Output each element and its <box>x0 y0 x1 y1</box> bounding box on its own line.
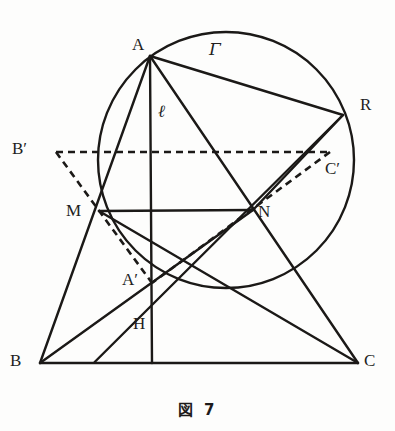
point-label-a-prime: A′ <box>122 271 138 288</box>
point-label-b-prime: B′ <box>12 140 27 157</box>
point-label-m: M <box>66 202 81 219</box>
point-label-n: N <box>258 203 270 220</box>
point-label-h: H <box>133 315 145 332</box>
point-label-c: C <box>364 352 375 369</box>
figure-7-geometry-diagram: A Γ R ℓ B′ C′ M N A′ H B C 図 7 <box>0 0 395 431</box>
line-label-ell: ℓ <box>158 103 165 120</box>
circle-group <box>98 32 354 288</box>
segment-M-N <box>99 210 253 211</box>
circumcircle-gamma <box>98 32 354 288</box>
solid-segments-group <box>40 56 358 363</box>
line-ell-A-to-foot <box>150 56 152 363</box>
circle-label-gamma: Γ <box>209 41 221 58</box>
segment-A-R <box>150 56 343 115</box>
geometry-canvas <box>0 0 395 431</box>
point-label-b: B <box>10 352 21 369</box>
point-label-a: A <box>132 36 144 53</box>
figure-caption: 図 7 <box>0 398 395 419</box>
point-label-c-prime: C′ <box>325 160 340 177</box>
point-label-r: R <box>360 96 371 113</box>
